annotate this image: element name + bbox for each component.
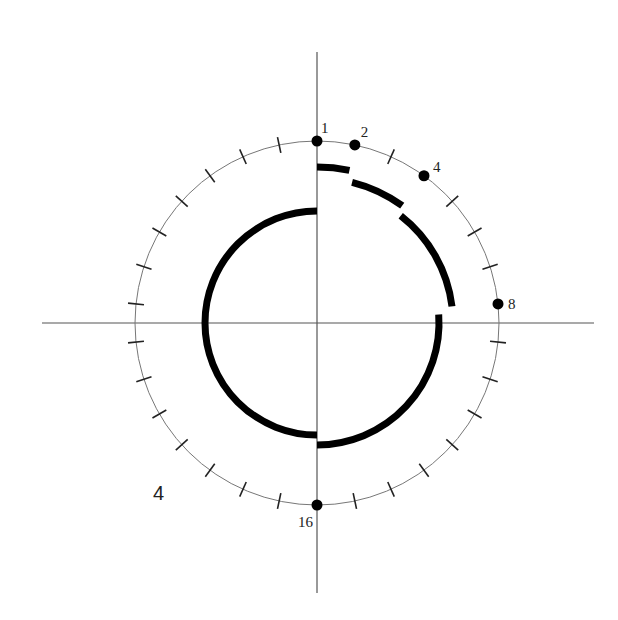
tick-mark [240,482,247,497]
ring-markers: 124816 [298,120,516,530]
tick-mark [482,264,497,269]
tick-mark [482,377,497,382]
tick-mark [152,410,166,418]
marker-dot [312,500,323,511]
ring-marker-4: 4 [418,159,441,182]
tick-mark [136,264,151,269]
marker-label: 16 [298,514,314,530]
axes [42,52,594,593]
tick-mark [490,341,506,343]
tick-mark [468,228,482,236]
spiral-arcs [205,167,452,445]
spiral-arc [317,314,439,445]
tick-mark [205,464,214,477]
ring-marker-2: 2 [349,124,368,151]
tick-mark [419,464,428,477]
tick-mark [152,228,166,236]
marker-label: 8 [508,296,516,312]
tick-mark [128,303,144,305]
tick-mark [136,377,151,382]
panel-label: 4 [153,482,164,504]
cyclic-doubling-diagram: 124816 4 [0,0,618,620]
spiral-arc [317,167,349,170]
ring-marker-1: 1 [312,120,329,147]
tick-mark [388,149,395,164]
marker-dot [493,298,504,309]
tick-mark [205,169,214,182]
spiral-arc [401,216,452,307]
ring-marker-8: 8 [493,296,516,312]
marker-label: 4 [433,159,441,175]
marker-label: 1 [321,120,329,136]
tick-mark [388,482,395,497]
marker-dot [349,139,360,150]
marker-dot [312,136,323,147]
tick-mark [240,149,247,164]
marker-label: 2 [361,124,369,140]
tick-mark [468,410,482,418]
spiral-arc [352,182,402,205]
tick-mark [128,341,144,343]
marker-dot [418,170,429,181]
